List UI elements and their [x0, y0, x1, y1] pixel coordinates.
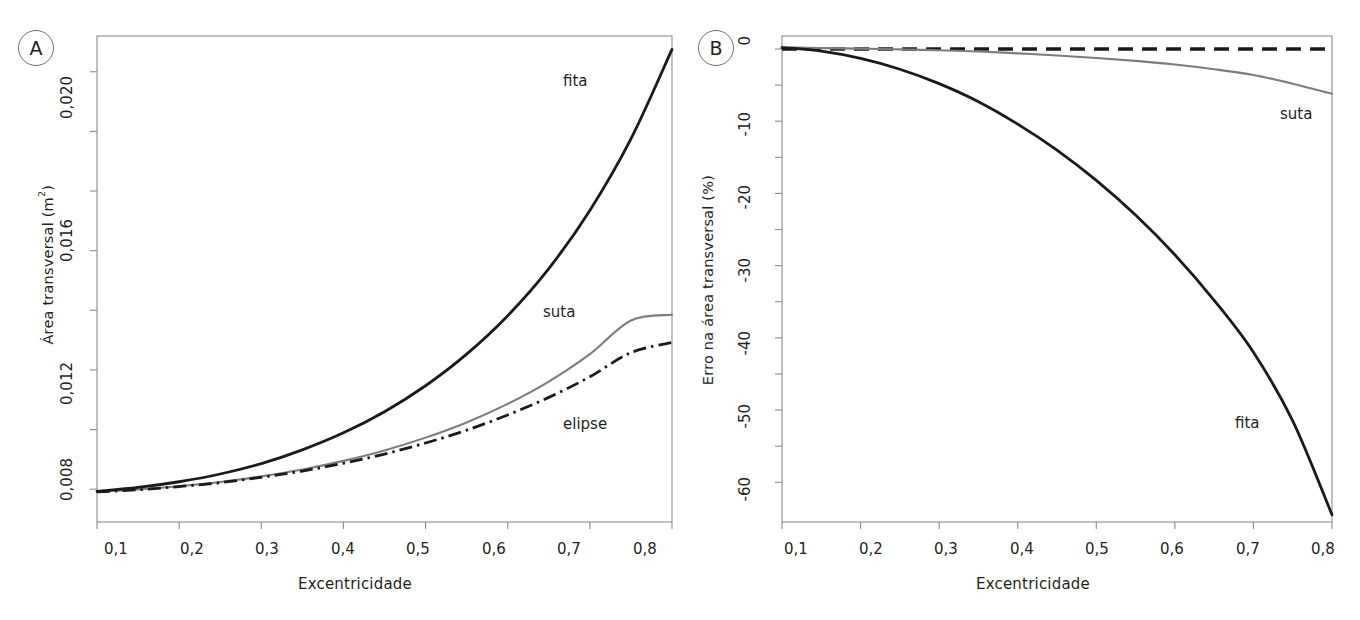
panel-a-plot: [0, 0, 680, 620]
curve-suta: [97, 315, 672, 492]
curve-suta: [782, 47, 1332, 94]
figure-container: A Área transversal (m2) 0,008 0,012 0,01…: [0, 0, 1360, 620]
plot-frame: [782, 36, 1332, 522]
panel-b-plot: [680, 0, 1360, 620]
panel-b: B Erro na área transversal (%) 0 -10 -20…: [680, 0, 1360, 620]
plot-frame: [97, 36, 672, 522]
curve-fita: [97, 49, 672, 491]
panel-a: A Área transversal (m2) 0,008 0,012 0,01…: [0, 0, 680, 620]
curve-elipse: [97, 343, 672, 492]
curve-fita: [782, 48, 1332, 515]
